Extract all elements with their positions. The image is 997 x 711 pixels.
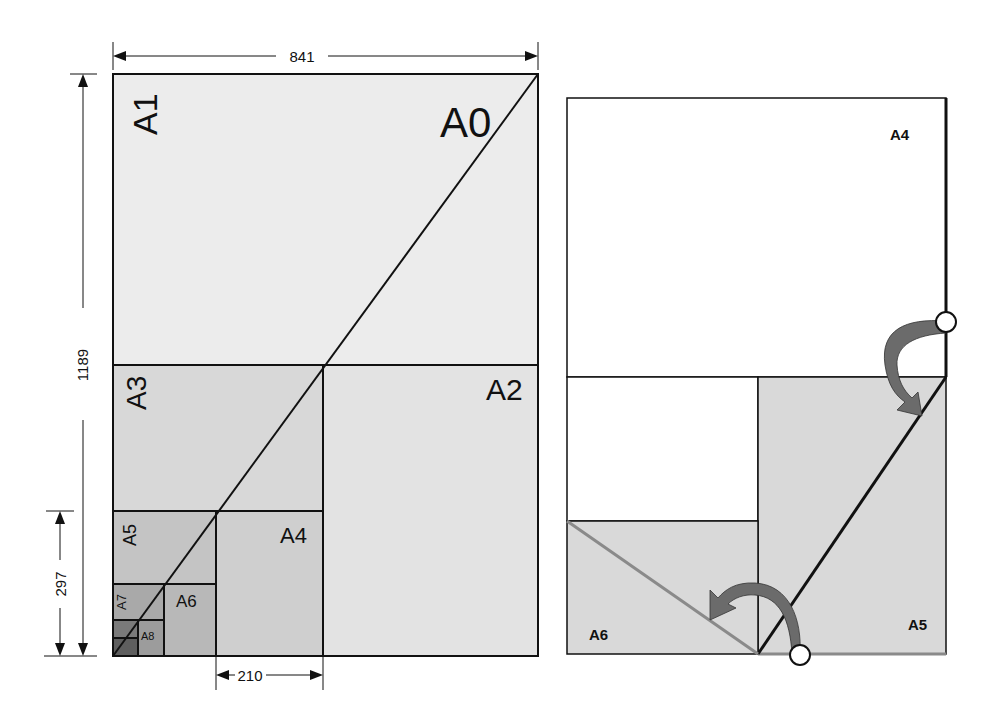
- region-a9: [113, 620, 138, 638]
- arrowhead-left-icon: [113, 51, 126, 61]
- label-a6: A6: [176, 592, 197, 611]
- label-a2: A2: [486, 373, 523, 406]
- label-a1: A1: [126, 93, 164, 135]
- pivot-upper-icon: [936, 312, 956, 332]
- region-a5: [113, 511, 216, 584]
- label-right-a6: A6: [589, 626, 608, 643]
- arrowhead-210-right-icon: [310, 670, 323, 680]
- dim-label-1189: 1189: [74, 349, 91, 381]
- region-a10: [113, 638, 138, 656]
- region-a2: [323, 365, 538, 656]
- dim-label-841: 841: [289, 48, 314, 65]
- right-diagram: A4 A5 A6: [567, 98, 956, 665]
- arrowhead-210-left-icon: [216, 670, 229, 680]
- label-a5: A5: [120, 524, 140, 546]
- left-diagram: 841 1189 297 210 A0 A1 A2 A3 A4 A5 A6 A7…: [44, 42, 538, 690]
- region-a4: [216, 511, 323, 656]
- arrowhead-down-icon: [78, 643, 88, 656]
- figure-canvas: 841 1189 297 210 A0 A1 A2 A3 A4 A5 A6 A7…: [0, 0, 997, 711]
- label-a3: A3: [121, 376, 152, 410]
- label-a8: A8: [141, 630, 154, 642]
- label-right-a4: A4: [890, 126, 910, 143]
- label-right-a5: A5: [908, 616, 927, 633]
- label-a7: A7: [114, 594, 129, 610]
- dim-label-210: 210: [237, 667, 262, 684]
- arrowhead-right-icon: [525, 51, 538, 61]
- sheet-lower-left: [567, 377, 758, 521]
- arrowhead-297-down-icon: [55, 643, 65, 656]
- label-a0: A0: [440, 99, 491, 146]
- arrowhead-297-up-icon: [55, 511, 65, 524]
- arrowhead-up-icon: [78, 74, 88, 87]
- dim-label-297: 297: [52, 571, 69, 596]
- pivot-lower-icon: [790, 645, 810, 665]
- label-a4: A4: [280, 523, 307, 548]
